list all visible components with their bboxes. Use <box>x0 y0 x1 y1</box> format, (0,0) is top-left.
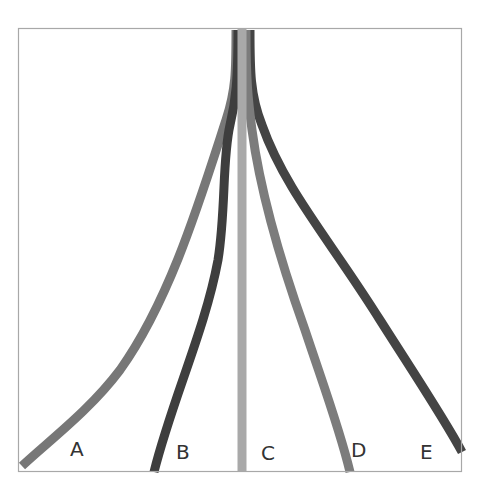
label-c: C <box>261 441 275 465</box>
label-a: A <box>70 437 84 461</box>
label-d: D <box>351 438 366 462</box>
label-b: B <box>176 440 190 464</box>
label-e: E <box>420 440 433 464</box>
branching-diagram: A B C D E <box>0 0 487 485</box>
